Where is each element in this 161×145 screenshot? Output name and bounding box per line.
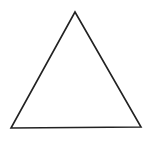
triangle-shape xyxy=(11,12,141,128)
triangle-diagram xyxy=(0,0,161,145)
diagram-canvas xyxy=(0,0,161,145)
